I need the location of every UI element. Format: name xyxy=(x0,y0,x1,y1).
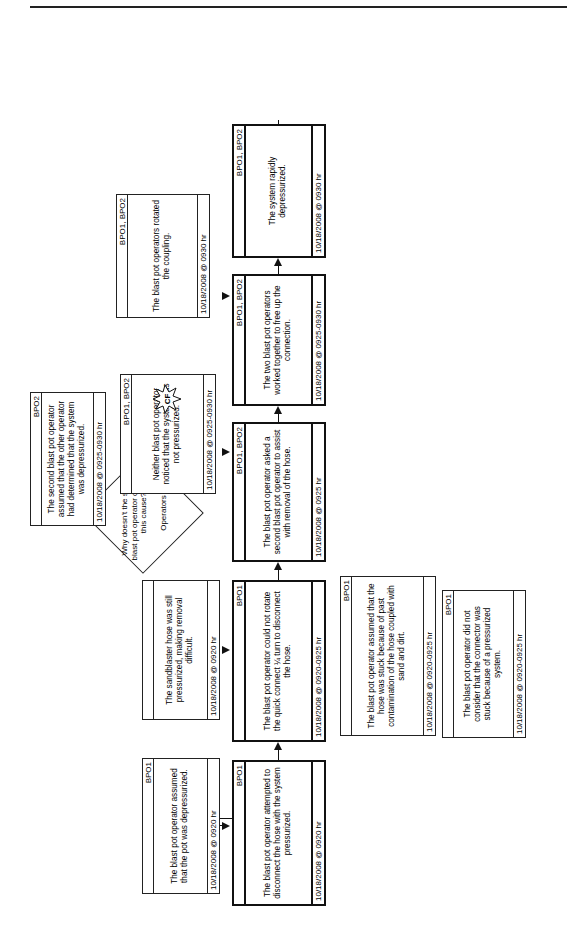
cf-label: CF xyxy=(163,394,172,405)
question-answer: Operators xyxy=(159,495,169,531)
condition-text: The blast pot operator did not consider … xyxy=(454,591,513,737)
timestamp: 10/18/2008 @ 0925-0930 hr xyxy=(203,375,216,493)
arrow-icon xyxy=(274,406,282,414)
actors-label: BPO1, BPO2 xyxy=(234,424,246,560)
arrow-icon xyxy=(222,822,230,830)
event-node-3: BPO1, BPO2 The blast pot operator asked … xyxy=(232,422,326,562)
event-text: The two blast pot operators worked toget… xyxy=(246,276,311,404)
event-text: The blast pot operator attempted to disc… xyxy=(246,762,311,904)
timestamp: 10/18/2008 @ 0925-0930 hr xyxy=(93,393,106,525)
actors-label xyxy=(143,581,154,719)
actors-label: BPO1 xyxy=(234,762,246,904)
arrow-icon xyxy=(222,448,230,456)
arrow-icon xyxy=(222,292,230,300)
event-node-4: BPO1, BPO2 The two blast pot operators w… xyxy=(232,274,326,406)
timestamp: 10/18/2008 @ 0920 hr xyxy=(207,581,220,719)
timestamp: 10/18/2008 @ 0930 hr xyxy=(311,126,325,256)
cf-marker: CF xyxy=(152,384,182,414)
condition-node-4-cause: BPO2 The second blast pot operator assum… xyxy=(30,392,106,526)
actors-label: BPO1 xyxy=(143,759,154,893)
timestamp: 10/18/2008 @ 0925 hr xyxy=(311,424,325,560)
arrow-icon xyxy=(222,646,230,654)
event-text: The blast pot operator asked a second bl… xyxy=(246,424,311,560)
condition-text: The sandblaster hose was still pressuriz… xyxy=(154,581,207,719)
timestamp: 10/18/2008 @ 0930 hr xyxy=(197,195,210,317)
condition-text: The blast pot operator assumed that the … xyxy=(352,577,423,735)
actors-label: BPO1, BPO2 xyxy=(234,126,246,256)
actors-label: BPO1 xyxy=(443,591,454,737)
condition-node-2-detail-2: BPO1 The blast pot operator did not cons… xyxy=(442,590,526,738)
timestamp: 10/18/2008 @ 0920 hr xyxy=(207,759,220,893)
connector xyxy=(218,818,232,819)
actors-label: BPO1, BPO2 xyxy=(234,276,246,404)
event-text: The blast pot operator could not rotate … xyxy=(246,582,311,740)
actors-label: BPO1, BPO2 xyxy=(117,195,128,317)
timestamp: 10/18/2008 @ 0920-0925 hr xyxy=(513,591,526,737)
event-node-1: BPO1 The blast pot operator attempted to… xyxy=(232,760,326,906)
condition-node-2: The sandblaster hose was still pressuriz… xyxy=(142,580,220,720)
event-node-5: BPO1, BPO2 The system rapidly depressuri… xyxy=(232,124,326,258)
actors-label: BPO2 xyxy=(31,393,42,525)
timestamp: 10/18/2008 @ 0925-0930 hr xyxy=(311,276,325,404)
arrow-icon xyxy=(274,742,282,750)
event-text: The system rapidly depressurized. xyxy=(246,126,311,256)
condition-node-2-detail-1: BPO1 The blast pot operator assumed that… xyxy=(340,576,436,736)
arrow-icon xyxy=(274,562,282,570)
event-node-2: BPO1 The blast pot operator could not ro… xyxy=(232,580,326,742)
condition-text: The blast pot operators rotated the coup… xyxy=(128,195,197,317)
actors-label: BPO1 xyxy=(341,577,352,735)
actors-label: BPO1, BPO2 xyxy=(121,375,132,493)
causal-chain-diagram: A BPO1 The blast pot operator attempted … xyxy=(0,0,567,934)
actors-label: BPO1 xyxy=(234,582,246,740)
timestamp: 10/18/2008 @ 0920-0925 hr xyxy=(423,577,436,735)
arrow-icon xyxy=(274,258,282,266)
timestamp: 10/18/2008 @ 0920-0925 hr xyxy=(311,582,325,740)
timestamp: 10/18/2008 @ 0920 hr xyxy=(311,762,325,904)
connector xyxy=(278,120,279,124)
condition-node-5: BPO1, BPO2 The blast pot operators rotat… xyxy=(116,194,210,318)
condition-text: The blast pot operator assumed that the … xyxy=(154,759,207,893)
condition-node-1: BPO1 The blast pot operator assumed that… xyxy=(142,758,220,894)
condition-text: The second blast pot operator assumed th… xyxy=(42,393,93,525)
